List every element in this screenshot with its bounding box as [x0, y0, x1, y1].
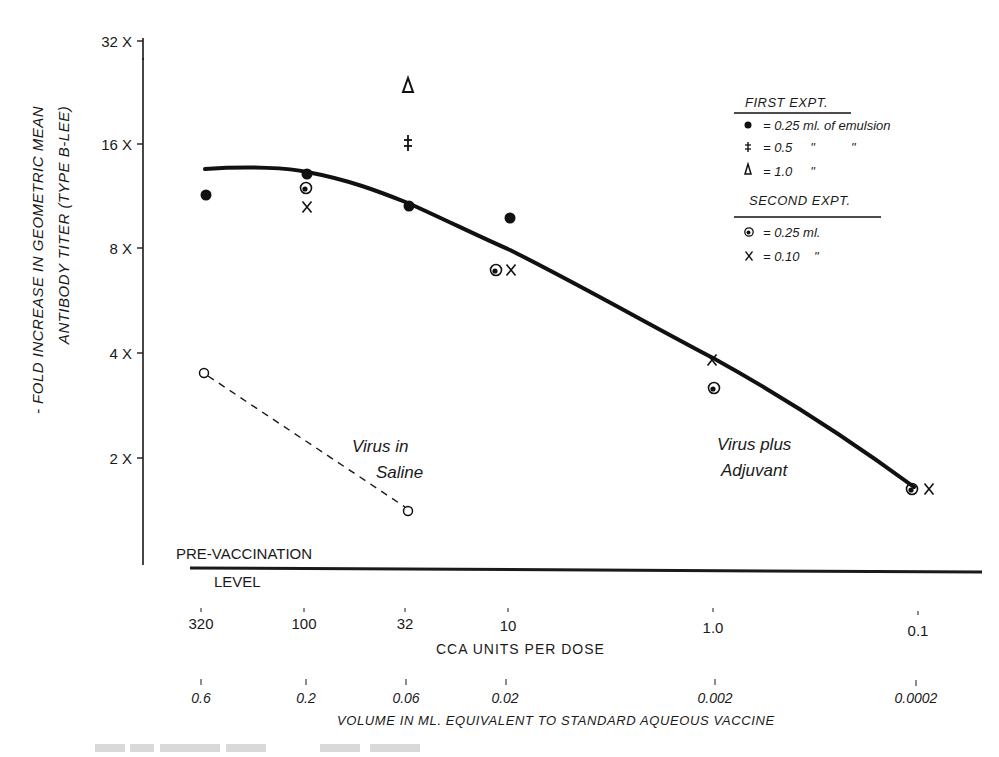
x-marker-icon: [925, 484, 934, 495]
legend-item-label: = 1.0 ": [763, 164, 816, 179]
annotation-saline-line2: Saline: [376, 463, 423, 482]
baseline-label-line2: LEVEL: [214, 573, 261, 590]
data-point: [709, 383, 720, 394]
filled-circle-icon: [745, 122, 752, 129]
legend-item-label: = 0.5 " ": [763, 140, 857, 155]
x-marker-icon: [746, 252, 753, 261]
x2-tick-0-02: 0.02: [491, 690, 518, 706]
figure-caption-fragment: [95, 744, 420, 752]
data-point: [200, 369, 209, 378]
data-point: [302, 169, 313, 180]
data-point: [404, 201, 415, 212]
x-axis-cca: 320 100 32 10 1.0 0.1 CCA UNITS PER DOSE: [188, 608, 928, 657]
x-tick-320: 320: [188, 615, 213, 632]
data-point: [301, 183, 312, 194]
baseline-label-line1: PRE-VACCINATION: [176, 545, 312, 562]
y-axis-title-line1: - FOLD INCREASE IN GEOMETRIC MEAN: [29, 106, 46, 414]
series-first-0-25: [201, 169, 516, 224]
x-tick-0-1: 0.1: [908, 622, 929, 639]
legend-item-label: = 0.25 ml. of emulsion: [763, 118, 891, 133]
legend-first-header: FIRST EXPT.: [745, 95, 828, 110]
x-tick-32: 32: [397, 615, 414, 632]
circled-dot-icon: [745, 228, 753, 236]
y-axis: 32 X 16 X 8 X 4 X 2 X - FOLD INCREASE IN…: [29, 33, 143, 565]
y-tick-2: 2 X: [109, 450, 132, 467]
legend-item-label: = 0.25 ml.: [763, 225, 820, 240]
x2-tick-0-2: 0.2: [296, 690, 316, 706]
annotation-saline-line1: Virus in: [352, 437, 408, 456]
x-axis-title-cca: CCA UNITS PER DOSE: [436, 641, 605, 657]
y-tick-32: 32 X: [101, 33, 132, 50]
triangle-icon: [745, 164, 751, 174]
y-tick-8: 8 X: [109, 240, 132, 257]
double-dagger-icon: [745, 142, 751, 152]
legend-second-header: SECOND EXPT.: [749, 193, 851, 208]
double-dagger-icon: [404, 135, 412, 151]
x2-tick-0-002: 0.002: [697, 690, 732, 706]
x-tick-100: 100: [291, 615, 316, 632]
x-tick-1: 1.0: [703, 619, 724, 636]
annotation-adjuvant-line2: Adjuvant: [720, 461, 788, 480]
x2-tick-0-0002: 0.0002: [895, 690, 938, 706]
data-point: [404, 507, 413, 516]
x2-tick-0-6: 0.6: [191, 690, 211, 706]
data-point: [505, 213, 516, 224]
legend: FIRST EXPT. = 0.25 ml. of emulsion = 0.5…: [734, 95, 891, 264]
y-tick-4: 4 X: [109, 345, 132, 362]
data-point: [201, 190, 212, 201]
x2-tick-0-06: 0.06: [392, 690, 419, 706]
y-axis-title-line2: ANTIBODY TITER (TYPE B-LEE): [55, 106, 72, 345]
x-marker-icon: [303, 202, 312, 213]
legend-item-label: = 0.10 ": [763, 249, 820, 264]
adjuvant-curve: [205, 168, 914, 487]
x-marker-icon: [507, 265, 516, 276]
triangle-icon: [403, 78, 413, 92]
x-tick-10: 10: [500, 617, 517, 634]
y-tick-16: 16 X: [101, 136, 132, 153]
data-point: [491, 265, 502, 276]
series-first-0-5: [404, 135, 412, 151]
chart: 32 X 16 X 8 X 4 X 2 X - FOLD INCREASE IN…: [0, 0, 999, 757]
series-first-1-0: [403, 78, 413, 92]
annotation-adjuvant-line1: Virus plus: [717, 435, 792, 454]
x-axis-volume: 0.6 0.2 0.06 0.02 0.002 0.0002 VOLUME IN…: [191, 679, 937, 728]
x-axis-title-volume: VOLUME IN ML. EQUIVALENT TO STANDARD AQU…: [337, 713, 775, 728]
baseline: PRE-VACCINATION LEVEL: [176, 545, 982, 590]
